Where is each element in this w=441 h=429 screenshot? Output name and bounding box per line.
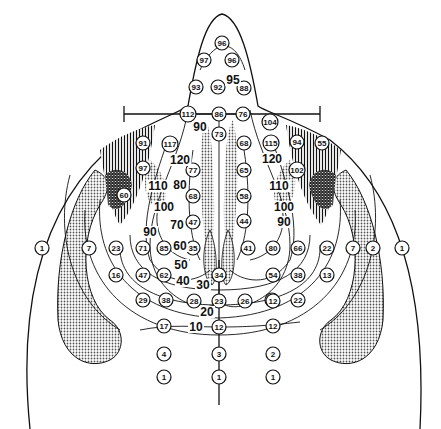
isodose-label: 10	[189, 320, 203, 334]
dose-value-circle: 68	[186, 189, 200, 203]
isodose-label: 100	[274, 200, 294, 214]
svg-text:12: 12	[215, 323, 224, 332]
svg-text:34: 34	[215, 271, 224, 280]
svg-text:76: 76	[239, 110, 248, 119]
svg-text:58: 58	[240, 192, 249, 201]
svg-text:115: 115	[265, 139, 278, 148]
isodose-label: 120	[170, 153, 190, 167]
svg-text:26: 26	[241, 297, 250, 306]
dose-value-circle: 17	[157, 319, 171, 333]
svg-text:54: 54	[269, 271, 278, 280]
svg-text:1: 1	[162, 373, 167, 382]
dose-value-circle: 102	[289, 162, 305, 178]
svg-text:68: 68	[240, 139, 249, 148]
dose-value-circle: 26	[238, 294, 252, 308]
svg-text:12: 12	[269, 322, 278, 331]
dose-value-circle: 12	[266, 294, 280, 308]
dose-value-circle: 23	[212, 294, 226, 308]
dose-value-circle: 96	[215, 36, 229, 50]
isodose-diagram: 9697969392881128676104911177368115945597…	[0, 0, 441, 429]
isodose-label: 95	[226, 73, 240, 87]
svg-text:47: 47	[189, 218, 198, 227]
isodose-label: 50	[174, 258, 188, 272]
isodose-label: 100	[154, 200, 174, 214]
svg-text:73: 73	[215, 130, 224, 139]
dose-value-circle: 34	[212, 268, 226, 282]
dose-value-circle: 7	[346, 241, 360, 255]
dose-value-circle: 12	[212, 320, 226, 334]
isodose-label: 60	[173, 239, 187, 253]
svg-text:92: 92	[214, 83, 223, 92]
dose-value-circle: 1	[35, 241, 49, 255]
isodose-label: 30	[196, 278, 210, 292]
dose-value-circle: 97	[136, 161, 150, 175]
dose-value-circle: 1	[266, 370, 280, 384]
svg-text:96: 96	[218, 39, 227, 48]
dose-value-circle: 55	[315, 136, 329, 150]
svg-text:86: 86	[215, 110, 224, 119]
svg-text:85: 85	[160, 244, 169, 253]
svg-text:93: 93	[192, 83, 201, 92]
dose-value-circle: 80	[266, 241, 280, 255]
svg-text:12: 12	[269, 297, 278, 306]
dose-value-circle: 29	[136, 293, 150, 307]
dose-value-circle: 35	[186, 241, 200, 255]
dose-value-circle: 1	[157, 370, 171, 384]
dose-value-circle: 23	[109, 241, 123, 255]
dose-value-circle: 3	[212, 347, 226, 361]
dose-value-circle: 66	[291, 241, 305, 255]
dose-value-circle: 94	[290, 135, 304, 149]
dose-value-circle: 93	[189, 80, 203, 94]
dose-value-circle: 41	[241, 241, 255, 255]
svg-text:22: 22	[323, 244, 332, 253]
dose-value-circle: 117	[162, 136, 178, 152]
dose-value-circle: 115	[263, 135, 279, 151]
dose-value-circle: 97	[197, 53, 211, 67]
dose-value-circle: 2	[266, 347, 280, 361]
svg-text:4: 4	[162, 350, 167, 359]
svg-text:104: 104	[263, 118, 277, 127]
dose-value-circle: 13	[320, 268, 334, 282]
svg-text:1: 1	[40, 244, 45, 253]
dose-value-circle: 38	[159, 293, 173, 307]
svg-text:65: 65	[240, 166, 249, 175]
svg-text:29: 29	[139, 296, 148, 305]
svg-text:28: 28	[190, 297, 199, 306]
dose-value-circle: 2	[366, 241, 380, 255]
dose-value-circle: 47	[136, 268, 150, 282]
dose-value-circle: 38	[291, 268, 305, 282]
svg-text:60: 60	[120, 191, 129, 200]
isodose-label: 120	[262, 152, 282, 166]
svg-text:66: 66	[294, 244, 303, 253]
svg-text:2: 2	[271, 350, 276, 359]
dose-value-circle: 65	[237, 163, 251, 177]
svg-text:94: 94	[293, 138, 302, 147]
dose-value-circle: 1	[212, 370, 226, 384]
svg-text:117: 117	[164, 140, 177, 149]
dose-value-circle: 7	[82, 241, 96, 255]
svg-text:96: 96	[228, 56, 237, 65]
svg-text:91: 91	[139, 139, 148, 148]
dose-value-circle: 22	[320, 241, 334, 255]
svg-text:7: 7	[87, 244, 92, 253]
dose-value-circle: 68	[237, 136, 251, 150]
svg-text:13: 13	[323, 271, 332, 280]
dose-value-circle: 54	[266, 268, 280, 282]
dose-value-circle: 22	[291, 293, 305, 307]
svg-text:7: 7	[351, 244, 356, 253]
dose-value-circle: 91	[136, 136, 150, 150]
dose-value-circle: 85	[157, 241, 171, 255]
isodose-label: 90	[143, 225, 157, 239]
svg-text:112: 112	[182, 110, 195, 119]
dose-value-circle: 92	[211, 80, 225, 94]
svg-text:1: 1	[217, 373, 222, 382]
svg-text:23: 23	[112, 244, 121, 253]
svg-text:38: 38	[294, 271, 303, 280]
dose-value-circle: 60	[117, 188, 131, 202]
dose-value-circle: 47	[186, 215, 200, 229]
svg-text:41: 41	[244, 244, 253, 253]
svg-text:23: 23	[215, 297, 224, 306]
svg-text:47: 47	[139, 271, 148, 280]
isodose-label: 80	[173, 178, 187, 192]
svg-text:102: 102	[290, 166, 304, 175]
